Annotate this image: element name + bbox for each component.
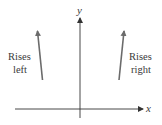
rises-right-line2: right [131, 64, 151, 75]
rises-right-line1: Rises [129, 51, 152, 62]
rises-left-label: Rises left [8, 51, 33, 75]
rises-left-line2: left [13, 64, 27, 75]
rises-right-arrow-icon [119, 31, 124, 80]
rises-right-label: Rises right [129, 51, 154, 75]
x-axis-label: x [145, 102, 151, 114]
end-behavior-diagram: x y Rises left Rises right [0, 0, 162, 125]
y-axis-label: y [76, 4, 82, 16]
rises-left-arrow-icon [38, 31, 43, 80]
rises-left-line1: Rises [8, 51, 31, 62]
